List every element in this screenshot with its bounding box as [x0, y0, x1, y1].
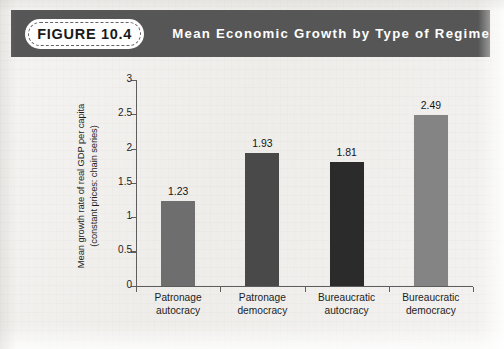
figure-page: FIGURE 10.4 Mean Economic Growth by Type…: [0, 0, 504, 349]
y-tick-label: 3: [126, 73, 132, 84]
y-tick-label: 0.5: [118, 244, 132, 255]
bar-patronage-democracy[interactable]: [245, 153, 279, 285]
x-axis-label-line: Bureaucratic: [389, 291, 473, 304]
y-tick-label: 2.5: [118, 107, 132, 118]
x-axis-label-bureaucratic-democracy: Bureaucraticdemocracy: [389, 291, 473, 317]
plot-area: 00.511.522.53 1.231.931.812.49: [136, 80, 473, 287]
x-axis-label-bureaucratic-autocracy: Bureaucraticautocracy: [305, 291, 389, 317]
x-axis-label-line: autocracy: [136, 304, 220, 317]
x-axis-label-patronage-democracy: Patronagedemocracy: [220, 291, 304, 317]
x-axis-label-line: Patronage: [220, 291, 304, 304]
y-tick-label: 0: [126, 279, 132, 290]
x-axis-label-line: democracy: [220, 304, 304, 317]
y-axis-title-line-2: (constant prices: chain series): [88, 125, 101, 246]
x-axis-label-patronage-autocracy: Patronageautocracy: [136, 291, 220, 317]
y-tick-label: 2: [126, 142, 132, 153]
bar-value-label: 1.81: [317, 147, 377, 158]
bar-value-label: 1.23: [148, 186, 208, 197]
bar-bureaucratic-democracy[interactable]: [414, 115, 448, 286]
bar-slot: 1.23: [136, 80, 220, 286]
bar-series: 1.231.931.812.49: [136, 80, 473, 286]
figure-number-badge: FIGURE 10.4: [25, 19, 144, 49]
x-tick-mark: [473, 287, 474, 292]
bar-bureaucratic-autocracy[interactable]: [330, 162, 364, 286]
y-axis-title-line-1: Mean growth rate of real GDP per capita: [75, 104, 88, 268]
y-axis-title: Mean growth rate of real GDP per capita …: [75, 70, 101, 302]
x-axis-labels: PatronageautocracyPatronagedemocracyBure…: [136, 291, 473, 325]
bar-patronage-autocracy[interactable]: [161, 201, 195, 285]
bar-slot: 1.81: [305, 80, 389, 286]
x-axis-label-line: democracy: [389, 304, 473, 317]
bar-slot: 1.93: [220, 80, 304, 286]
y-tick-label: 1.5: [118, 176, 132, 187]
x-axis-label-line: autocracy: [305, 304, 389, 317]
x-axis-label-line: Bureaucratic: [305, 291, 389, 304]
figure-number-label: FIGURE 10.4: [37, 26, 132, 42]
bar-value-label: 2.49: [401, 100, 461, 111]
y-tick-label: 1: [126, 210, 132, 221]
bar-slot: 2.49: [389, 80, 473, 286]
x-axis-label-line: Patronage: [136, 291, 220, 304]
figure-title: Mean Economic Growth by Type of Regime: [172, 26, 490, 41]
chart-container: Mean growth rate of real GDP per capita …: [11, 58, 490, 332]
bar-value-label: 1.93: [232, 138, 292, 149]
figure-header-band: FIGURE 10.4 Mean Economic Growth by Type…: [11, 10, 490, 57]
